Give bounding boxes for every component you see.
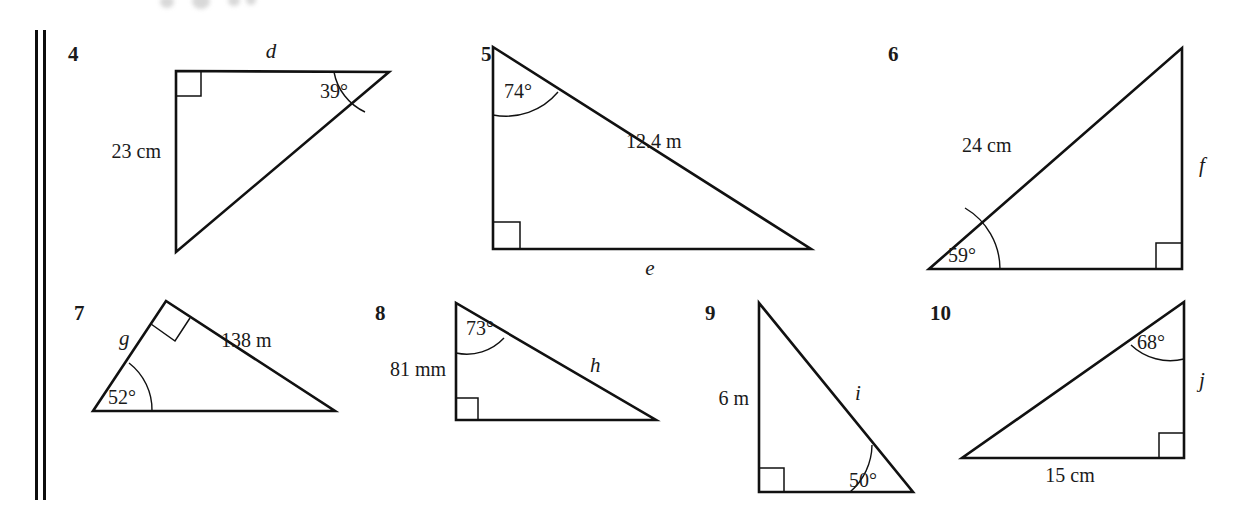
figure-6-angle-label: 59° — [948, 244, 976, 266]
angle-arc-8 — [456, 338, 504, 354]
figure-number-10: 10 — [930, 301, 951, 325]
figure-number-8: 8 — [375, 301, 386, 325]
figure-8-left-label: 81 mm — [390, 358, 447, 380]
figure-9: 9 6 m i 50° — [705, 301, 913, 492]
right-angle-marker-7 — [151, 318, 190, 341]
worksheet-page: 4 d 23 cm 39° 5 74° 12.4 m e 6 — [0, 0, 1237, 522]
figure-7: 7 g 138 m 52° — [74, 301, 335, 411]
figure-5: 5 74° 12.4 m e — [481, 42, 811, 280]
figure-7-right-label: 138 m — [221, 329, 272, 351]
triangle-10-outline — [962, 302, 1184, 458]
figure-4-angle-label: 39° — [320, 80, 348, 102]
figure-9-left-label: 6 m — [718, 387, 749, 409]
right-angle-marker-6 — [1156, 243, 1182, 269]
right-angle-marker-9 — [759, 468, 784, 492]
right-angle-marker-4 — [176, 71, 201, 96]
figure-6: 6 24 cm f 59° — [888, 42, 1208, 269]
figure-4: 4 d 23 cm 39° — [68, 39, 389, 252]
figure-9-angle-label: 50° — [849, 469, 877, 491]
triangle-6-outline — [929, 48, 1182, 269]
triangle-9-outline — [759, 303, 913, 492]
figure-4-top-label: d — [266, 39, 277, 63]
right-angle-marker-8 — [456, 398, 478, 420]
figure-number-6: 6 — [888, 42, 899, 66]
figure-10-bottom-label: 15 cm — [1045, 464, 1095, 486]
figure-4-left-label: 23 cm — [112, 140, 162, 162]
figure-number-4: 4 — [68, 42, 79, 66]
figures-canvas: 4 d 23 cm 39° 5 74° 12.4 m e 6 — [0, 0, 1237, 522]
figure-5-angle-label: 74° — [504, 80, 532, 102]
right-angle-marker-10 — [1159, 433, 1184, 458]
figure-5-bottom-label: e — [645, 256, 654, 280]
figure-8-angle-label: 73° — [466, 317, 494, 339]
figure-7-angle-label: 52° — [108, 386, 136, 408]
figure-9-hypotenuse-label: i — [855, 381, 861, 405]
figure-number-9: 9 — [705, 301, 716, 325]
figure-10-angle-label: 68° — [1137, 331, 1165, 353]
figure-10: 10 68° j 15 cm — [930, 301, 1205, 486]
triangle-4-outline — [176, 71, 389, 252]
figure-7-left-label: g — [119, 326, 130, 350]
figure-8: 8 73° 81 mm h — [375, 301, 656, 420]
figure-number-7: 7 — [74, 301, 85, 325]
figure-6-right-label: f — [1199, 153, 1208, 177]
figure-6-hypotenuse-label: 24 cm — [962, 134, 1012, 156]
figure-10-right-label: j — [1196, 368, 1205, 392]
figure-5-hypotenuse-label: 12.4 m — [626, 130, 682, 152]
figure-8-hypotenuse-label: h — [590, 353, 601, 377]
figure-number-5: 5 — [481, 42, 492, 66]
right-angle-marker-5 — [493, 222, 520, 249]
